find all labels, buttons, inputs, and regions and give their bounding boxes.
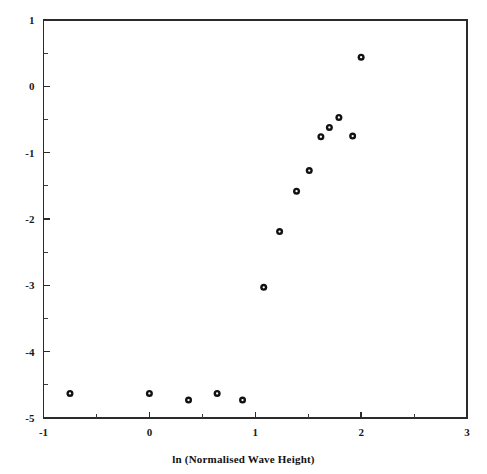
x-tick-label: 1	[253, 426, 259, 438]
data-point	[358, 54, 365, 61]
x-tick-label: -1	[39, 426, 48, 438]
data-point-marker-center	[69, 392, 71, 394]
data-point	[306, 167, 313, 174]
chart-canvas: -10123 10-1-2-3-4-5 ln (Normalised Wave …	[0, 0, 487, 474]
data-point	[276, 228, 283, 235]
data-point-marker-center	[320, 136, 322, 138]
data-point-marker-center	[241, 399, 243, 401]
y-tick-label: -2	[25, 213, 35, 225]
data-point-marker-center	[148, 392, 150, 394]
data-point-marker-center	[328, 126, 330, 128]
data-point-marker-center	[338, 116, 340, 118]
data-point-marker-center	[360, 56, 362, 58]
y-tick-label: -3	[25, 279, 35, 291]
data-point	[185, 397, 192, 404]
y-tick-label: -4	[25, 346, 35, 358]
x-tick-label: 0	[147, 426, 153, 438]
x-tick-label: 2	[358, 426, 364, 438]
data-point-marker-center	[352, 135, 354, 137]
data-point	[326, 124, 333, 131]
data-point	[335, 114, 342, 121]
x-axis-title: ln (Normalised Wave Height)	[172, 453, 315, 466]
data-point-marker-center	[308, 169, 310, 171]
data-point	[317, 133, 324, 140]
y-tick-label: -5	[25, 412, 35, 424]
data-point-marker-center	[187, 399, 189, 401]
data-point-marker-center	[295, 190, 297, 192]
data-point	[146, 390, 153, 397]
data-point	[349, 133, 356, 140]
data-point-marker-center	[263, 286, 265, 288]
data-point-marker-center	[278, 230, 280, 232]
y-tick-label: -1	[25, 147, 34, 159]
data-point-marker-center	[216, 392, 218, 394]
data-point	[214, 390, 221, 397]
data-point	[239, 397, 246, 404]
data-point	[66, 390, 73, 397]
data-point	[260, 284, 267, 291]
data-point	[293, 188, 300, 195]
y-tick-label: 1	[29, 14, 35, 26]
x-tick-label: 3	[464, 426, 470, 438]
y-tick-label: 0	[29, 80, 35, 92]
scatter-chart-figure: -10123 10-1-2-3-4-5 ln (Normalised Wave …	[0, 0, 487, 474]
